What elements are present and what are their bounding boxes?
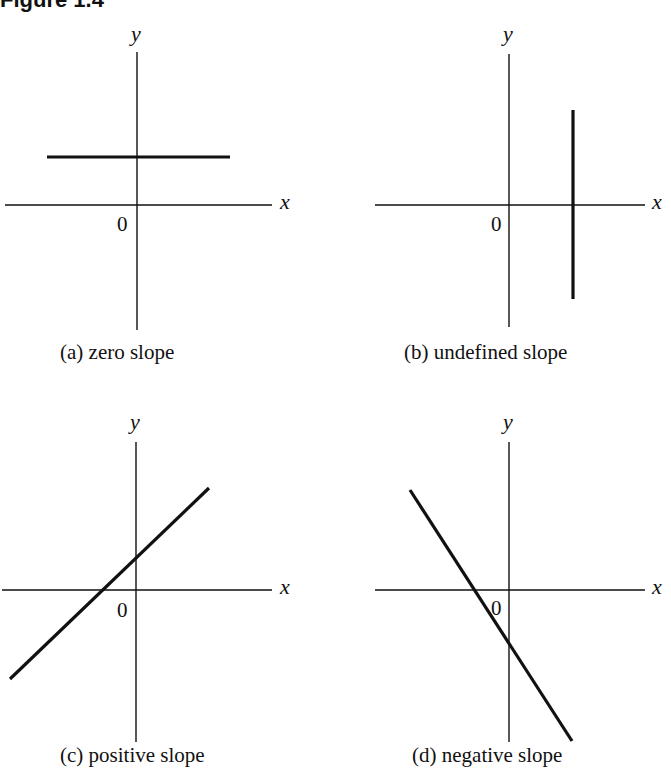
panel-a-origin-label: 0 — [117, 214, 128, 235]
panel-a-zero-slope — [5, 52, 272, 330]
panel-b-undefined-slope — [375, 54, 645, 327]
panel-c-positive-line — [10, 488, 209, 679]
panel-c-y-label: y — [130, 411, 140, 433]
panel-a-x-label: x — [280, 191, 290, 213]
panel-c-x-label: x — [280, 576, 290, 598]
panel-d-origin-label: 0 — [491, 598, 502, 619]
panel-d-y-label: y — [503, 411, 513, 433]
panel-b-x-label: x — [652, 191, 662, 213]
panel-d-x-label: x — [652, 576, 662, 598]
slope-diagrams — [0, 0, 671, 778]
panel-d-caption: (d) negative slope — [412, 745, 562, 766]
panel-d-negative-slope — [375, 442, 645, 742]
panel-b-y-label: y — [503, 23, 513, 45]
panel-c-caption: (c) positive slope — [60, 745, 205, 766]
panel-b-caption: (b) undefined slope — [404, 342, 567, 363]
panel-a-y-label: y — [131, 23, 141, 45]
panel-c-origin-label: 0 — [117, 600, 128, 621]
panel-c-positive-slope — [2, 442, 272, 742]
panel-a-caption: (a) zero slope — [60, 342, 174, 363]
panel-b-origin-label: 0 — [491, 214, 502, 235]
